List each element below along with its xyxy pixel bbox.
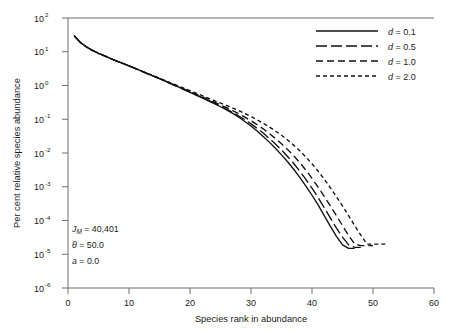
series-line-d-0-1 bbox=[74, 36, 355, 249]
legend: d = 0.1 d = 0.5 d = 1.0 d = 2.0 bbox=[316, 27, 416, 82]
x-axis-ticks bbox=[68, 288, 434, 294]
annotation-jm: JM = 40,401 bbox=[71, 224, 119, 235]
legend-label-d-0-5: d = 0.5 bbox=[388, 42, 416, 52]
y-axis-ticks bbox=[62, 18, 68, 288]
y-tick-exponent: -4 bbox=[45, 214, 51, 221]
x-tick-label: 0 bbox=[65, 298, 70, 308]
plot-axes bbox=[68, 18, 434, 288]
y-tick-exponent: 1 bbox=[45, 45, 49, 52]
series-line-d-0-5 bbox=[74, 36, 361, 248]
y-tick-label: 10 bbox=[34, 149, 44, 159]
rank-abundance-chart: 10 2 10 1 10 0 10 -1 10 -2 10 -3 10 -4 1… bbox=[0, 0, 464, 330]
x-tick-labels: 0 10 20 30 40 50 60 bbox=[65, 298, 439, 308]
series-line-d-2-0 bbox=[74, 36, 385, 244]
y-tick-exponent: -5 bbox=[45, 247, 51, 254]
parameter-annotations: JM = 40,401 θ = 50.0 a = 0.0 bbox=[71, 224, 119, 266]
y-tick-label: 10 bbox=[34, 81, 44, 91]
x-tick-label: 20 bbox=[185, 298, 195, 308]
y-tick-exponent: -3 bbox=[45, 180, 51, 187]
y-tick-label: 10 bbox=[34, 115, 44, 125]
annotation-theta: θ = 50.0 bbox=[72, 240, 104, 250]
y-tick-labels: 10 2 10 1 10 0 10 -1 10 -2 10 -3 10 -4 1… bbox=[34, 11, 51, 294]
y-tick-label: 10 bbox=[34, 14, 44, 24]
legend-label-d-1-0: d = 1.0 bbox=[388, 57, 416, 67]
x-axis-title: Species rank in abundance bbox=[195, 314, 307, 324]
x-tick-label: 10 bbox=[124, 298, 134, 308]
y-tick-exponent: 2 bbox=[45, 11, 49, 18]
y-tick-exponent: -6 bbox=[45, 281, 51, 288]
x-tick-label: 60 bbox=[429, 298, 439, 308]
y-tick-label: 10 bbox=[34, 47, 44, 57]
annotation-a: a = 0.0 bbox=[72, 256, 99, 266]
y-tick-exponent: 0 bbox=[45, 79, 49, 86]
data-series-group bbox=[74, 36, 385, 249]
x-tick-label: 40 bbox=[307, 298, 317, 308]
legend-label-d-2-0: d = 2.0 bbox=[388, 72, 416, 82]
y-tick-exponent: -2 bbox=[45, 146, 51, 153]
y-tick-label: 10 bbox=[34, 284, 44, 294]
y-tick-label: 10 bbox=[34, 182, 44, 192]
y-tick-exponent: -1 bbox=[45, 112, 51, 119]
x-tick-label: 30 bbox=[246, 298, 256, 308]
figure-container: 10 2 10 1 10 0 10 -1 10 -2 10 -3 10 -4 1… bbox=[0, 0, 464, 330]
y-tick-label: 10 bbox=[34, 216, 44, 226]
y-tick-label: 10 bbox=[34, 250, 44, 260]
y-axis-title: Per cent relative species abundance bbox=[12, 78, 22, 228]
x-tick-label: 50 bbox=[368, 298, 378, 308]
legend-label-d-0-1: d = 0.1 bbox=[388, 27, 416, 37]
